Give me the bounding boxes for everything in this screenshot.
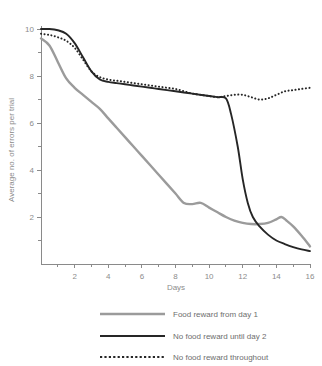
x-tick-label: 2: [72, 272, 77, 281]
chart-container: 246810 246810121416 Average no. of error…: [0, 0, 322, 366]
legend-label-0: Food reward from day 1: [173, 310, 258, 319]
x-tick-label: 4: [106, 272, 111, 281]
x-tick-label: 14: [272, 272, 281, 281]
line-chart: 246810 246810121416 Average no. of error…: [0, 0, 322, 366]
x-tick-label: 16: [306, 272, 315, 281]
x-axis: 246810121416: [41, 264, 315, 281]
chart-legend: Food reward from day 1 No food reward un…: [100, 310, 269, 362]
y-tick-label: 6: [30, 119, 35, 128]
series-line-1: [41, 29, 310, 251]
y-tick-label: 10: [25, 25, 34, 34]
legend-label-2: No food reward throughout: [173, 353, 269, 362]
legend-label-1: No food reward until day 2: [173, 332, 267, 341]
x-tick-label: 8: [173, 272, 178, 281]
series-lines: [41, 29, 310, 251]
y-axis: 246810: [25, 25, 41, 264]
x-tick-label: 6: [140, 272, 145, 281]
legend-item-0: Food reward from day 1: [100, 310, 258, 319]
series-line-0: [41, 38, 310, 246]
y-axis-title: Average no. of errors per trial: [7, 98, 16, 202]
x-tick-label: 10: [205, 272, 214, 281]
y-tick-label: 2: [30, 213, 35, 222]
y-tick-label: 4: [30, 166, 35, 175]
x-tick-label: 12: [238, 272, 247, 281]
series-line-2: [41, 34, 310, 100]
legend-item-1: No food reward until day 2: [100, 332, 267, 341]
y-tick-label: 8: [30, 72, 35, 81]
x-axis-title: Days: [167, 283, 185, 292]
legend-item-2: No food reward throughout: [100, 353, 269, 362]
